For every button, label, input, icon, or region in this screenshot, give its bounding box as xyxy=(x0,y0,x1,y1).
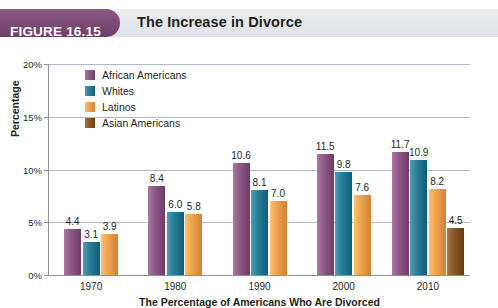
bar: 3.1 xyxy=(83,242,100,275)
y-axis-tick-mark xyxy=(44,275,49,276)
bar-fill xyxy=(148,186,165,275)
x-axis-tick-label: 1990 xyxy=(248,281,270,292)
bar-fill xyxy=(101,234,118,275)
bar: 11.7 xyxy=(392,152,409,275)
figure-title: The Increase in Divorce xyxy=(137,14,302,30)
bar-value-label: 6.0 xyxy=(168,199,182,210)
legend-item: Asian Americans xyxy=(85,115,187,130)
y-axis-tick-label: 15% xyxy=(23,111,42,122)
bar-value-label: 4.4 xyxy=(66,216,80,227)
bar-value-label: 11.7 xyxy=(391,139,410,150)
gridline xyxy=(49,64,470,65)
x-axis-tick-label: 2000 xyxy=(333,281,355,292)
legend-item: Whites xyxy=(85,83,187,98)
x-axis-tick-label: 1970 xyxy=(80,281,102,292)
bar-fill xyxy=(392,152,409,275)
bar-fill xyxy=(447,228,464,275)
y-axis-tick-label: 10% xyxy=(23,164,42,175)
bar-value-label: 5.8 xyxy=(187,201,201,212)
bar-fill xyxy=(64,229,81,275)
bar: 8.1 xyxy=(251,190,268,275)
bar-value-label: 8.2 xyxy=(430,176,444,187)
bar-fill xyxy=(233,163,250,275)
bar: 8.4 xyxy=(148,186,165,275)
bar-value-label: 11.5 xyxy=(316,141,335,152)
bar-value-label: 10.9 xyxy=(409,147,428,158)
bar: 7.6 xyxy=(354,195,371,275)
y-axis-tick-mark xyxy=(44,170,49,171)
bar-value-label: 4.5 xyxy=(449,215,463,226)
bar: 3.9 xyxy=(101,234,118,275)
bar-value-label: 7.6 xyxy=(355,182,369,193)
bar-fill xyxy=(167,212,184,275)
bar-fill xyxy=(429,189,446,276)
x-axis-title: The Percentage of Americans Who Are Divo… xyxy=(49,296,470,308)
bar: 9.8 xyxy=(335,172,352,275)
y-axis-tick-mark xyxy=(44,117,49,118)
y-axis-tick-label: 20% xyxy=(23,59,42,70)
bar-fill xyxy=(317,154,334,275)
bar-fill xyxy=(251,190,268,275)
bar: 10.9 xyxy=(410,160,427,275)
legend-item: African Americans xyxy=(85,67,187,82)
x-axis-tick-label: 1980 xyxy=(164,281,186,292)
bar-value-label: 10.6 xyxy=(231,150,250,161)
bar-value-label: 3.9 xyxy=(103,221,117,232)
bar: 7.0 xyxy=(270,201,287,275)
legend-swatch xyxy=(85,102,95,112)
y-axis-tick-label: 0% xyxy=(28,270,42,281)
bar-fill xyxy=(83,242,100,275)
y-axis-tick-label: 5% xyxy=(28,217,42,228)
legend-label: Asian Americans xyxy=(102,117,180,129)
bar-value-label: 9.8 xyxy=(337,159,351,170)
legend-swatch xyxy=(85,70,95,80)
bar-fill xyxy=(270,201,287,275)
bar-value-label: 3.1 xyxy=(84,229,98,240)
chart-container: Percentage The Percentage of Americans W… xyxy=(0,37,498,304)
bar-value-label: 8.4 xyxy=(150,173,164,184)
y-axis-tick-mark xyxy=(44,64,49,65)
y-axis-tick-mark xyxy=(44,222,49,223)
figure-number-badge: FIGURE 16.15 xyxy=(0,9,120,37)
bar-value-label: 7.0 xyxy=(271,188,285,199)
bar-fill xyxy=(410,160,427,275)
bar-fill xyxy=(185,214,202,275)
x-axis-tick-label: 2010 xyxy=(417,281,439,292)
bar-fill xyxy=(335,172,352,275)
bar-fill xyxy=(354,195,371,275)
y-axis-title: Percentage xyxy=(9,80,21,137)
legend-label: Latinos xyxy=(102,101,136,113)
bar-value-label: 8.1 xyxy=(253,177,267,188)
bar: 8.2 xyxy=(429,189,446,276)
chart-legend: African AmericansWhitesLatinosAsian Amer… xyxy=(85,67,187,131)
legend-label: Whites xyxy=(102,85,134,97)
legend-swatch xyxy=(85,118,95,128)
bar: 6.0 xyxy=(167,212,184,275)
bar: 11.5 xyxy=(317,154,334,275)
legend-item: Latinos xyxy=(85,99,187,114)
legend-label: African Americans xyxy=(102,69,187,81)
legend-swatch xyxy=(85,86,95,96)
bar: 10.6 xyxy=(233,163,250,275)
bar: 4.4 xyxy=(64,229,81,275)
bar: 5.8 xyxy=(185,214,202,275)
bar: 4.5 xyxy=(447,228,464,275)
